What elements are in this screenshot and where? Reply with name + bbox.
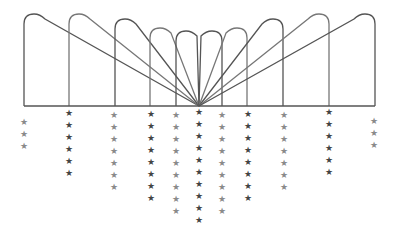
star-icon: ★ [172, 147, 180, 156]
star-icon: ★ [172, 135, 180, 144]
star-icon: ★ [147, 122, 155, 131]
star-icon: ★ [172, 123, 180, 132]
star-icon: ★ [195, 216, 203, 225]
star-icon: ★ [218, 171, 226, 180]
star-icon: ★ [195, 192, 203, 201]
arch-curve-2 [69, 14, 199, 106]
star-icon: ★ [147, 158, 155, 167]
star-icon: ★ [110, 183, 118, 192]
star-icon: ★ [244, 158, 252, 167]
star-icon: ★ [280, 171, 288, 180]
star-icon: ★ [195, 180, 203, 189]
star-icon: ★ [195, 156, 203, 165]
star-icon: ★ [110, 123, 118, 132]
star-icon: ★ [325, 132, 333, 141]
star-icon: ★ [65, 157, 73, 166]
star-icon: ★ [20, 130, 28, 139]
star-icon: ★ [280, 111, 288, 120]
star-icon: ★ [110, 111, 118, 120]
star-icon: ★ [195, 144, 203, 153]
star-icon: ★ [244, 182, 252, 191]
star-icon: ★ [147, 194, 155, 203]
star-icon: ★ [147, 170, 155, 179]
arch-curve-3 [115, 19, 199, 106]
star-icon: ★ [172, 207, 180, 216]
arch-curve-4 [150, 28, 199, 106]
star-icon: ★ [147, 182, 155, 191]
arch-curve-9 [199, 14, 329, 106]
star-icon: ★ [244, 122, 252, 131]
arch-curve-10 [199, 14, 375, 106]
star-icon: ★ [172, 195, 180, 204]
star-icon: ★ [195, 108, 203, 117]
star-icon: ★ [20, 118, 28, 127]
star-icon: ★ [370, 117, 378, 126]
star-icon: ★ [20, 142, 28, 151]
star-icon: ★ [147, 146, 155, 155]
star-icon: ★ [218, 195, 226, 204]
star-icon: ★ [172, 183, 180, 192]
star-icon: ★ [218, 207, 226, 216]
star-icon: ★ [65, 109, 73, 118]
star-icon: ★ [147, 110, 155, 119]
star-icon: ★ [325, 108, 333, 117]
star-icon: ★ [244, 194, 252, 203]
star-icon: ★ [244, 110, 252, 119]
star-icon: ★ [325, 120, 333, 129]
star-icon: ★ [280, 123, 288, 132]
arch-curve-7 [199, 28, 247, 106]
star-icon: ★ [325, 156, 333, 165]
star-icon: ★ [218, 147, 226, 156]
arch-curve-1 [24, 14, 199, 106]
star-icon: ★ [195, 204, 203, 213]
star-icon: ★ [218, 159, 226, 168]
star-icon: ★ [218, 183, 226, 192]
star-icon: ★ [280, 135, 288, 144]
star-icon: ★ [325, 168, 333, 177]
star-icon: ★ [172, 159, 180, 168]
arch-curve-8 [199, 19, 283, 106]
star-icon: ★ [218, 135, 226, 144]
star-icon: ★ [370, 141, 378, 150]
star-icon: ★ [244, 170, 252, 179]
star-icon: ★ [195, 120, 203, 129]
star-icon: ★ [110, 147, 118, 156]
star-icon: ★ [325, 144, 333, 153]
star-icon: ★ [280, 147, 288, 156]
star-icon: ★ [195, 168, 203, 177]
star-icon: ★ [65, 169, 73, 178]
star-icon: ★ [218, 111, 226, 120]
star-icon: ★ [218, 123, 226, 132]
star-icon: ★ [280, 159, 288, 168]
star-icon: ★ [110, 159, 118, 168]
star-icon: ★ [244, 134, 252, 143]
star-icon: ★ [110, 171, 118, 180]
star-icon: ★ [370, 129, 378, 138]
fan-arch-diagram: ★★★★★★★★★★★★★★★★★★★★★★★★★★★★★★★★★★★★★★★★… [0, 0, 396, 236]
star-icon: ★ [280, 183, 288, 192]
star-icon: ★ [172, 171, 180, 180]
star-icon: ★ [244, 146, 252, 155]
star-icon: ★ [65, 121, 73, 130]
star-icon: ★ [147, 134, 155, 143]
star-icon: ★ [65, 145, 73, 154]
star-icon: ★ [172, 111, 180, 120]
star-icon: ★ [65, 133, 73, 142]
star-icon: ★ [110, 135, 118, 144]
star-icon: ★ [195, 132, 203, 141]
